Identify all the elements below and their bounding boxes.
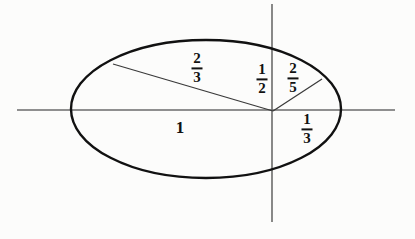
fraction-numerator: 1 [302,112,312,128]
fraction-one-third: 1 3 [302,112,313,146]
fraction-numerator: 1 [257,62,267,78]
label-two-fifths: 2 5 [288,60,299,95]
label-one-half: 1 2 [257,61,268,96]
diagram-canvas [0,0,415,239]
fraction-numerator: 2 [192,51,202,67]
label-one: 1 [176,119,185,136]
label-two-thirds: 2 3 [192,50,203,85]
ellipse-outline [71,40,341,178]
fraction-one-half: 1 2 [257,62,268,96]
fraction-denominator: 5 [288,79,298,95]
fraction-denominator: 3 [192,69,202,85]
fraction-two-thirds: 2 3 [192,51,203,85]
fraction-two-fifths: 2 5 [288,61,299,95]
ellipse-sector-diagram: 2 3 1 2 2 5 1 3 1 [0,0,415,239]
whole-number-one: 1 [176,118,185,137]
label-one-third: 1 3 [302,111,313,146]
fraction-denominator: 2 [257,80,267,96]
fraction-denominator: 3 [302,130,312,146]
fraction-numerator: 2 [288,61,298,77]
